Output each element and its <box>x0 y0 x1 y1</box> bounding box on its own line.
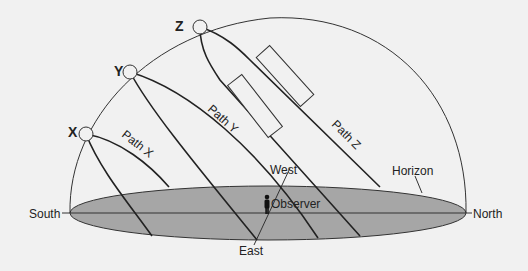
path-y-label: Path Y <box>205 102 241 136</box>
horizon-label: Horizon <box>392 164 433 178</box>
east-label: East <box>239 244 264 258</box>
point-z-marker <box>193 20 207 34</box>
point-y-marker <box>123 65 137 79</box>
west-label: West <box>270 163 298 177</box>
observer-label: Observer <box>271 197 320 211</box>
point-z-label: Z <box>175 18 184 34</box>
point-x-label: X <box>68 124 78 140</box>
path-x-label: Path X <box>119 127 156 160</box>
north-label: North <box>473 207 502 221</box>
point-x-marker <box>79 127 93 141</box>
building-rect-right <box>256 45 314 106</box>
horizon-leader-line <box>415 176 422 193</box>
path-z-label: Path Z <box>329 117 364 152</box>
sky-dome-diagram: X Y Z Path X Path Y Path Z South North W… <box>0 0 528 271</box>
point-y-label: Y <box>114 63 124 79</box>
south-label: South <box>29 207 60 221</box>
